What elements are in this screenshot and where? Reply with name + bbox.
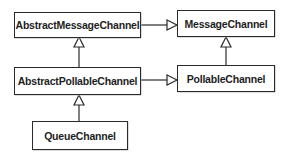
hollow-triangle-arrow-icon: [167, 20, 177, 30]
class-label: AbstractPollableChannel: [18, 75, 138, 87]
class-box-queue-channel: QueueChannel: [32, 121, 128, 150]
uml-diagram: AbstractMessageChannel MessageChannel Ab…: [0, 0, 289, 155]
hollow-triangle-arrow-icon: [221, 37, 231, 47]
hollow-triangle-arrow-icon: [74, 37, 84, 47]
class-box-abstract-message-channel: AbstractMessageChannel: [14, 12, 141, 38]
class-label: AbstractMessageChannel: [16, 19, 140, 31]
class-box-abstract-pollable-channel: AbstractPollableChannel: [14, 67, 141, 95]
class-box-pollable-channel: PollableChannel: [177, 65, 275, 92]
class-label: QueueChannel: [44, 130, 116, 142]
hollow-triangle-arrow-icon: [74, 95, 84, 105]
class-label: MessageChannel: [185, 18, 268, 30]
hollow-triangle-arrow-icon: [167, 75, 177, 85]
class-label: PollableChannel: [187, 73, 266, 85]
class-box-message-channel: MessageChannel: [177, 10, 275, 37]
